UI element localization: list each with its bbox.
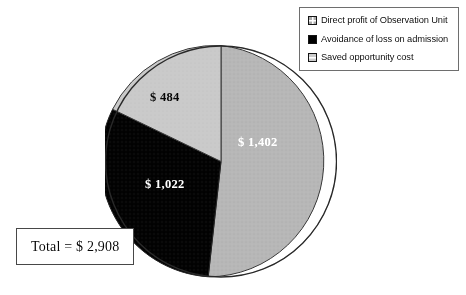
solid-black-square-icon [308, 35, 317, 44]
legend-label-avoidance-of-loss: Avoidance of loss on admission [321, 34, 448, 46]
pie-label-avoidance-of-loss: $ 1,022 [145, 177, 185, 192]
pie-slice-saved-opportunity-cost [208, 46, 324, 277]
legend-item-direct-profit: Direct profit of Observation Unit [308, 15, 453, 27]
legend-item-avoidance-of-loss: Avoidance of loss on admission [308, 34, 453, 46]
legend-label-direct-profit: Direct profit of Observation Unit [321, 15, 447, 27]
legend-item-saved-opportunity-cost: Saved opportunity cost [308, 52, 453, 64]
pie-chart-figure: $ 1,402 $ 1,022 $ 484 Direct profit of O… [0, 0, 466, 295]
pie-chart-graphic [105, 45, 337, 278]
chart-legend: Direct profit of Observation Unit Avoida… [299, 7, 459, 71]
light-gray-square-icon [308, 53, 317, 62]
pie-svg [105, 45, 337, 278]
pie-label-direct-profit: $ 484 [150, 90, 180, 105]
total-value-text: Total = $ 2,908 [31, 239, 119, 254]
hatched-gray-square-icon [308, 16, 317, 25]
total-callout-box: Total = $ 2,908 [16, 228, 134, 265]
legend-label-saved-opportunity-cost: Saved opportunity cost [321, 52, 413, 64]
pie-label-saved-opportunity-cost: $ 1,402 [238, 135, 278, 150]
